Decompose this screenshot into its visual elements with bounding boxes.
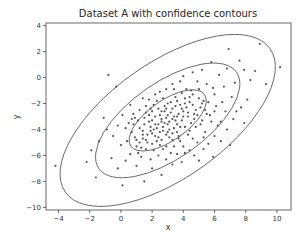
data-point [142, 97, 144, 99]
data-point [134, 136, 136, 138]
y-axis-ticks: 420−2−4−6−8−10 [26, 22, 46, 212]
data-point [146, 141, 148, 143]
axes-frame [46, 23, 291, 210]
data-point [187, 112, 189, 114]
x-axis-ticks: −4−20246810 [53, 210, 281, 223]
data-point [154, 93, 156, 95]
data-point [162, 126, 164, 128]
data-point [164, 105, 166, 107]
data-point [179, 140, 181, 142]
data-point [189, 101, 191, 103]
data-point [154, 115, 156, 117]
data-point [167, 102, 169, 104]
data-point [143, 123, 145, 125]
data-point [235, 110, 237, 112]
data-point [254, 70, 256, 72]
data-point [143, 117, 145, 119]
data-point [151, 143, 153, 145]
chart-title: Dataset A with confidence contours [79, 8, 257, 19]
data-point [243, 69, 245, 71]
data-point [135, 145, 137, 147]
x-tick-label: 2 [150, 215, 154, 223]
data-point [240, 106, 242, 108]
data-point [170, 152, 172, 154]
data-point [199, 123, 201, 125]
data-point [120, 144, 122, 146]
x-tick-label: −2 [85, 215, 95, 223]
data-point [160, 118, 162, 120]
data-point [151, 132, 153, 134]
y-tick-label: −2 [31, 100, 41, 108]
data-point [206, 113, 208, 115]
data-point [167, 114, 169, 116]
x-tick-label: 8 [244, 215, 248, 223]
y-tick-label: −6 [31, 152, 42, 160]
data-point [139, 127, 141, 129]
data-point [243, 122, 245, 124]
data-point [135, 139, 137, 141]
data-point [143, 180, 145, 182]
data-point [117, 167, 119, 169]
data-point [179, 126, 181, 128]
data-point [259, 43, 261, 45]
data-point [121, 184, 123, 186]
data-point [159, 91, 161, 93]
x-tick-label: 10 [272, 215, 281, 223]
x-tick-label: 0 [119, 215, 123, 223]
data-point [146, 134, 148, 136]
data-point [213, 110, 215, 112]
scatter-chart: Dataset A with confidence contours −4−20… [0, 0, 308, 240]
data-point [151, 167, 153, 169]
data-point [135, 165, 137, 167]
data-point [196, 141, 198, 143]
data-point [203, 148, 205, 150]
data-point [171, 83, 173, 85]
data-point [220, 140, 222, 142]
data-point [170, 101, 172, 103]
data-point [160, 139, 162, 141]
data-point [145, 148, 147, 150]
data-point [187, 115, 189, 117]
data-point [212, 87, 214, 89]
data-point [199, 106, 201, 108]
data-point [176, 153, 178, 155]
data-point [153, 128, 155, 130]
data-point [265, 83, 267, 85]
data-point [181, 161, 183, 163]
data-point [213, 93, 215, 95]
data-point [126, 140, 128, 142]
data-point [159, 131, 161, 133]
data-point [157, 123, 159, 125]
data-point [206, 83, 208, 85]
data-point [198, 97, 200, 99]
data-point [246, 99, 248, 101]
data-point [181, 119, 183, 121]
data-point [224, 110, 226, 112]
data-point [190, 122, 192, 124]
data-point [157, 154, 159, 156]
data-point [195, 109, 197, 111]
data-point [112, 135, 114, 137]
data-point [189, 96, 191, 98]
data-point [160, 174, 162, 176]
data-point [145, 139, 147, 141]
contour-middle [77, 41, 258, 200]
data-point [148, 121, 150, 123]
data-point [182, 75, 184, 77]
data-point [184, 97, 186, 99]
y-tick-label: −8 [31, 178, 41, 186]
data-point [204, 131, 206, 133]
data-point [176, 115, 178, 117]
data-point [176, 123, 178, 125]
data-point [157, 136, 159, 138]
y-axis-label: y [12, 114, 21, 119]
data-point [207, 143, 209, 145]
data-point [171, 163, 173, 165]
data-point [185, 106, 187, 108]
data-point [207, 101, 209, 103]
data-point [150, 158, 152, 160]
data-point [154, 135, 156, 137]
data-point [178, 113, 180, 115]
data-point [164, 110, 166, 112]
data-point [160, 110, 162, 112]
